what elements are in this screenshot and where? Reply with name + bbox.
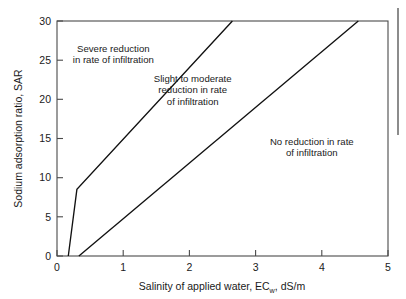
x-tick-label: 4 — [319, 261, 325, 273]
annotation-line: Severe reduction — [77, 43, 150, 54]
annotation-line: of infiltration — [286, 147, 338, 158]
y-tick-label: 5 — [45, 211, 51, 223]
x-tick-label: 3 — [253, 261, 259, 273]
y-axis-title: Sodium adsorption ratio, SAR — [12, 69, 24, 208]
x-tick-label: 2 — [186, 261, 192, 273]
y-tick-labels: 0 5 10 15 20 25 30 — [39, 15, 51, 262]
x-tick-labels: 0 1 2 3 4 5 — [54, 261, 391, 273]
x-tick-label: 5 — [385, 261, 391, 273]
y-axis-ticks — [57, 21, 63, 256]
x-axis-title-suffix: , dS/m — [275, 280, 306, 292]
y-tick-label: 25 — [39, 54, 51, 66]
infiltration-hazard-chart: 0 1 2 3 4 5 0 5 10 15 20 25 30 Severe re… — [0, 0, 406, 299]
x-axis-title-main: Salinity of applied water, EC — [139, 280, 270, 292]
y-tick-label: 10 — [39, 171, 51, 183]
x-axis-ticks — [57, 250, 388, 256]
annotation-no-reduction: No reduction in rate of infiltration — [270, 136, 354, 159]
annotation-line: No reduction in rate — [270, 136, 354, 147]
x-axis-title: Salinity of applied water, ECw, dS/m — [139, 280, 306, 295]
x-tick-label: 0 — [54, 261, 60, 273]
page-edge-artifact — [397, 8, 399, 135]
annotation-line: reduction in rate — [158, 84, 227, 95]
annotation-line: Slight to moderate — [154, 73, 232, 84]
chart-svg: 0 1 2 3 4 5 0 5 10 15 20 25 30 Severe re… — [0, 0, 406, 299]
x-tick-label: 1 — [120, 261, 126, 273]
annotation-line: of infiltration — [167, 96, 219, 107]
y-tick-label: 15 — [39, 132, 51, 144]
annotation-severe-reduction: Severe reduction in rate of infiltration — [73, 43, 154, 66]
y-tick-label: 30 — [39, 15, 51, 27]
y-tick-label: 20 — [39, 93, 51, 105]
annotation-slight-moderate-reduction: Slight to moderate reduction in rate of … — [154, 73, 232, 107]
y-tick-label: 0 — [45, 250, 51, 262]
annotation-line: in rate of infiltration — [73, 54, 154, 65]
